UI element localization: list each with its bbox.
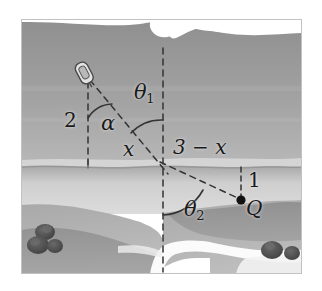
theta-1-subscript: 1 [146, 91, 154, 106]
label-point-Q: Q [246, 198, 262, 218]
theta-2-glyph: θ [184, 197, 197, 221]
diagram-artwork [0, 0, 322, 291]
theta-1-glyph: θ [134, 80, 147, 104]
figure-canvas: 2 α θ1 x 3 − x 1 θ2 Q [0, 0, 322, 291]
water-haze-1 [21, 86, 302, 91]
label-angle-theta-2: θ2 [184, 199, 204, 222]
label-distance-3-minus-x: 3 − x [173, 137, 226, 157]
label-angle-alpha: α [101, 113, 115, 134]
label-angle-theta-1: θ1 [134, 82, 154, 105]
label-distance-x: x [123, 139, 134, 159]
point-Q-dot [236, 195, 245, 204]
far-water [21, 19, 302, 169]
label-distance-1: 1 [248, 170, 261, 190]
label-distance-2: 2 [64, 110, 77, 130]
theta-2-subscript: 2 [196, 208, 204, 223]
